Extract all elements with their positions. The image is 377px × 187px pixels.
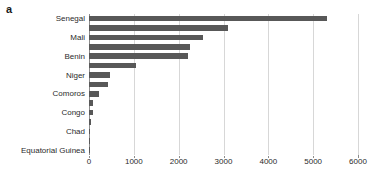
bar-row[interactable] xyxy=(89,42,358,51)
x-tick-label-2000: 2000 xyxy=(170,157,188,167)
x-axis-tick-labels: 0100020003000400050006000 xyxy=(89,157,358,171)
bar[interactable] xyxy=(89,82,108,88)
bar[interactable] xyxy=(89,129,90,135)
bar[interactable] xyxy=(89,16,327,22)
bar-row[interactable] xyxy=(89,89,358,98)
x-tick-label-3000: 3000 xyxy=(215,157,233,167)
bar[interactable] xyxy=(89,63,136,69)
y-axis-label-mali: Mali xyxy=(70,33,85,42)
bar[interactable] xyxy=(89,91,99,97)
bar[interactable] xyxy=(89,53,188,59)
bar-row[interactable] xyxy=(89,61,358,70)
bar[interactable] xyxy=(89,147,90,153)
gridline-6000 xyxy=(358,14,359,155)
bar-row[interactable] xyxy=(89,23,358,32)
x-tick-label-5000: 5000 xyxy=(304,157,322,167)
x-tick-label-6000: 6000 xyxy=(349,157,367,167)
y-axis-label-equatorial-guinea: Equatorial Guinea xyxy=(21,146,85,155)
bar-row[interactable] xyxy=(89,127,358,136)
y-axis-label-chad: Chad xyxy=(66,127,85,136)
bar-row[interactable] xyxy=(89,52,358,61)
bar-row[interactable] xyxy=(89,33,358,42)
bar[interactable] xyxy=(89,72,110,78)
x-axis-line xyxy=(89,155,358,156)
bar[interactable] xyxy=(89,110,93,116)
bar-row[interactable] xyxy=(89,70,358,79)
x-tick-label-4000: 4000 xyxy=(259,157,277,167)
bar[interactable] xyxy=(89,35,203,41)
bar-row[interactable] xyxy=(89,146,358,155)
bar[interactable] xyxy=(89,44,190,50)
bar-row[interactable] xyxy=(89,136,358,145)
x-tick-label-1000: 1000 xyxy=(125,157,143,167)
bar[interactable] xyxy=(89,138,90,144)
y-axis-category-labels: SenegalMaliBeninNigerComorosCongoChadEqu… xyxy=(0,14,85,155)
bar[interactable] xyxy=(89,119,91,125)
figure-panel-a: a SenegalMaliBeninNigerComorosCongoChadE… xyxy=(0,0,377,187)
bar-row[interactable] xyxy=(89,14,358,23)
bar[interactable] xyxy=(89,100,93,106)
bar[interactable] xyxy=(89,25,228,31)
bar-row[interactable] xyxy=(89,108,358,117)
y-axis-label-benin: Benin xyxy=(65,52,85,61)
bar-row[interactable] xyxy=(89,80,358,89)
y-axis-label-niger: Niger xyxy=(66,71,85,80)
bar-chart-plot-area xyxy=(89,14,358,155)
x-tick-label-0: 0 xyxy=(87,157,91,167)
y-axis-label-senegal: Senegal xyxy=(56,14,85,23)
bar-row[interactable] xyxy=(89,99,358,108)
y-axis-label-comoros: Comoros xyxy=(53,89,85,98)
bar-row[interactable] xyxy=(89,117,358,126)
y-axis-label-congo: Congo xyxy=(61,108,85,117)
